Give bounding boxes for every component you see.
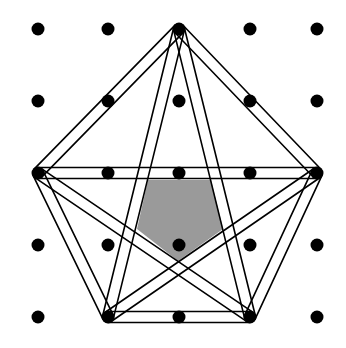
grid-dot [32, 95, 45, 108]
grid-dot [311, 311, 324, 324]
grid-dot [102, 239, 115, 252]
grid-dot [102, 167, 115, 180]
grid-dot [244, 95, 257, 108]
edge-line-top-right [175, 33, 313, 177]
grid-dot [173, 239, 186, 252]
grid-dot [311, 23, 324, 36]
pentagon-star-diagram [0, 0, 346, 348]
grid-dot [311, 95, 324, 108]
grid-dot [244, 167, 257, 180]
grid-dot [32, 311, 45, 324]
grid-dot [311, 239, 324, 252]
grid-dot [173, 23, 186, 36]
grid-dot [102, 95, 115, 108]
grid-dot [32, 23, 45, 36]
grid-dot [102, 311, 115, 324]
diagram-canvas [0, 0, 346, 348]
grid-dot [244, 239, 257, 252]
grid-dot [173, 167, 186, 180]
grid-dot [173, 311, 186, 324]
grid-dot [173, 95, 186, 108]
grid-dot [244, 311, 257, 324]
grid-dot [244, 23, 257, 36]
grid-dot [102, 23, 115, 36]
grid-dot [311, 167, 324, 180]
dot-grid [32, 23, 324, 324]
grid-dot [32, 167, 45, 180]
grid-dot [32, 239, 45, 252]
